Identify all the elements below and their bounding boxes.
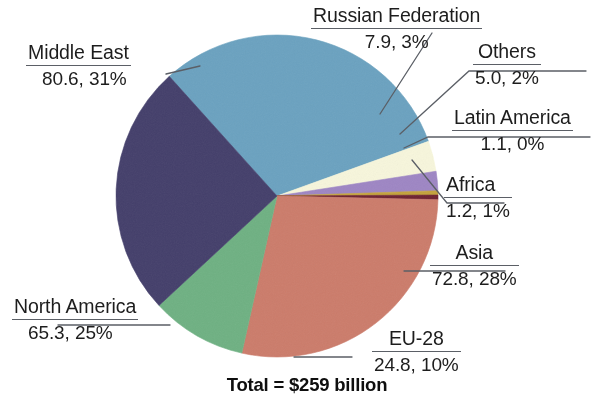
slice-label-russian-federation-value: 7.9, 3%	[311, 31, 482, 53]
chart-total-label: Total = $259 billion	[182, 374, 432, 396]
slice-label-others: Others 5.0, 2%	[473, 41, 541, 89]
slice-label-asia-rule	[430, 265, 519, 266]
slice-label-asia: Asia 72.8, 28%	[430, 242, 519, 290]
slice-label-others-value: 5.0, 2%	[473, 67, 541, 89]
slice-label-eu28: EU-28 24.8, 10%	[372, 328, 461, 376]
slice-label-asia-value: 72.8, 28%	[430, 268, 519, 290]
slice-label-eu28-rule	[372, 351, 461, 352]
slice-label-middle-east-value: 80.6, 31%	[26, 68, 131, 90]
slice-label-africa-rule	[444, 197, 512, 198]
slice-label-north-america-value: 65.3, 25%	[12, 322, 138, 344]
slice-label-latin-america-value: 1.1, 0%	[452, 133, 573, 155]
slice-label-africa: Africa 1.2, 1%	[444, 174, 512, 222]
pie-paper-grain	[116, 35, 438, 357]
slice-label-middle-east-name: Middle East	[26, 42, 131, 64]
pie-chart-figure: Middle East 80.6, 31% Russian Federation…	[0, 0, 593, 404]
slice-label-others-rule	[473, 64, 541, 65]
slice-label-latin-america-rule	[452, 130, 573, 131]
slice-label-latin-america-name: Latin America	[452, 107, 573, 129]
slice-label-asia-name: Asia	[430, 242, 519, 264]
slice-label-russian-federation-name: Russian Federation	[311, 5, 482, 27]
slice-label-middle-east: Middle East 80.6, 31%	[26, 42, 131, 90]
slice-label-eu28-value: 24.8, 10%	[372, 354, 461, 376]
slice-label-latin-america: Latin America 1.1, 0%	[452, 107, 573, 155]
slice-label-north-america-name: North America	[12, 296, 138, 318]
slice-label-africa-value: 1.2, 1%	[444, 200, 512, 222]
slice-label-north-america: North America 65.3, 25%	[12, 296, 138, 344]
slice-label-north-america-rule	[12, 319, 138, 320]
slice-label-russian-federation-rule	[311, 28, 482, 29]
slice-label-eu28-name: EU-28	[372, 328, 461, 350]
slice-label-russian-federation: Russian Federation 7.9, 3%	[311, 5, 482, 53]
slice-label-africa-name: Africa	[444, 174, 512, 196]
slice-label-middle-east-rule	[26, 65, 131, 66]
slice-label-others-name: Others	[473, 41, 541, 63]
